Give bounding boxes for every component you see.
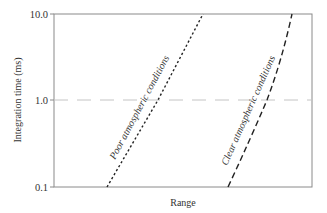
x-axis-label: Range bbox=[170, 197, 196, 208]
chart-canvas: 10.0 1.0 0.1 Integration time (ms) Range… bbox=[0, 0, 327, 213]
ytick-label-0-1: 0.1 bbox=[35, 182, 48, 193]
ytick-label-1: 1.0 bbox=[35, 95, 48, 106]
label-poor-conditions: Poor atmospheric conditions bbox=[107, 53, 172, 162]
y-axis-label: Integration time (ms) bbox=[12, 58, 24, 143]
label-clear-conditions: Clear atmospheric conditions bbox=[219, 54, 277, 167]
curve-clear-conditions bbox=[228, 14, 292, 187]
ytick-label-10: 10.0 bbox=[30, 9, 48, 20]
